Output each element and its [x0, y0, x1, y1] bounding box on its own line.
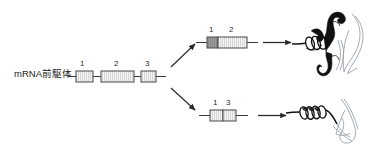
- lower-exon-1-box: [210, 110, 223, 121]
- upper-exon-1-box: [207, 37, 218, 48]
- mrna-precursor-label: mRNA前駆体: [14, 69, 72, 79]
- protein-long-n-terminus: [292, 43, 306, 44]
- precursor-exon-2-box: [101, 71, 134, 82]
- protein-short-n-terminus: [286, 112, 300, 113]
- upper-exon-2-box: [218, 37, 247, 48]
- mrna-precursor-group: [68, 71, 166, 82]
- mature-mrna-upper-group: [196, 37, 258, 48]
- lower-exon-3-box: [223, 110, 236, 121]
- protein-short-beta-sheet: [333, 99, 358, 143]
- upper-exon-2-number: 2: [229, 26, 233, 34]
- branch-arrow-upper: [171, 44, 195, 67]
- protein-product-long-structure: [292, 12, 363, 76]
- splicing-diagram-figure: mRNA前駆体 1 2 3 1 2 1 3: [0, 0, 382, 157]
- precursor-exon-3-box: [141, 71, 156, 82]
- precursor-exon-1-box: [76, 71, 93, 82]
- lower-exon-3-number: 3: [226, 99, 230, 107]
- protein-short-helix: [299, 105, 327, 120]
- lower-exon-1-number: 1: [213, 99, 217, 107]
- upper-exon-1-number: 1: [209, 26, 213, 34]
- protein-product-short-structure: [286, 99, 358, 143]
- branch-arrow-lower: [171, 88, 195, 110]
- precursor-exon-2-number: 2: [114, 60, 118, 68]
- precursor-exon-3-number: 3: [145, 60, 149, 68]
- precursor-exon-1-number: 1: [80, 60, 84, 68]
- mature-mrna-lower-group: [199, 110, 248, 121]
- protein-long-ribbon: [311, 12, 345, 76]
